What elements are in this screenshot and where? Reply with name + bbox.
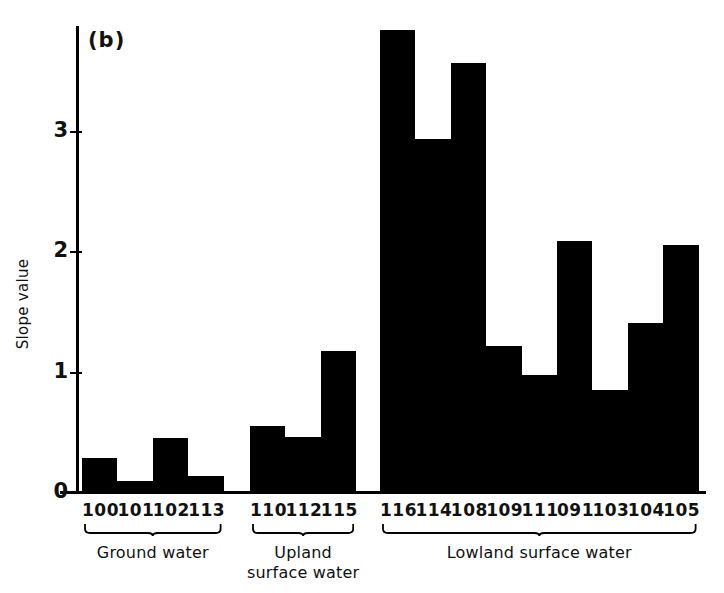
x-tick-label-111: 111 xyxy=(522,500,557,520)
x-tick-label-108: 108 xyxy=(451,500,486,520)
x-tick-label-109: 109 xyxy=(486,500,521,520)
bar-111 xyxy=(522,375,557,492)
bar-109 xyxy=(486,346,521,492)
x-tick-label-101: 101 xyxy=(117,500,152,520)
bar-114 xyxy=(415,139,450,492)
x-tick-label-112: 112 xyxy=(285,500,320,520)
bar-110 xyxy=(250,426,285,492)
bar-115 xyxy=(321,351,356,492)
bar-091 xyxy=(557,241,592,492)
bar-100 xyxy=(82,458,117,492)
x-tick-label-110: 110 xyxy=(250,500,285,520)
bar-101 xyxy=(117,481,152,492)
bar-105 xyxy=(663,245,698,492)
x-tick-label-104: 104 xyxy=(628,500,663,520)
bar-104 xyxy=(628,323,663,492)
bar-103 xyxy=(592,390,627,492)
bar-108 xyxy=(451,63,486,492)
group-brace-ground-water xyxy=(84,524,222,536)
x-tick-label-103: 103 xyxy=(592,500,627,520)
group-brace-lowland-surface-water xyxy=(382,524,697,536)
bar-112 xyxy=(285,437,320,492)
bar-chart-figure: 3 2 1 0 Slope value (b) 1001011021131101… xyxy=(0,0,724,593)
bar-116 xyxy=(380,30,415,492)
bars-layer xyxy=(0,0,724,492)
group-label-lowland-surface-water: Lowland surface water xyxy=(350,543,724,563)
x-tick-label-100: 100 xyxy=(82,500,117,520)
y-tick-0: 0 xyxy=(0,492,82,494)
bar-102 xyxy=(153,438,188,492)
group-brace-upland-surface-water xyxy=(252,524,354,536)
x-tick-label-115: 115 xyxy=(321,500,356,520)
x-tick-label-116: 116 xyxy=(380,500,415,520)
x-tick-label-114: 114 xyxy=(415,500,450,520)
bar-113 xyxy=(188,476,223,492)
x-tick-label-113: 113 xyxy=(188,500,223,520)
x-tick-label-102: 102 xyxy=(153,500,188,520)
x-tick-label-105: 105 xyxy=(663,500,698,520)
x-tick-label-091: 091 xyxy=(557,500,592,520)
